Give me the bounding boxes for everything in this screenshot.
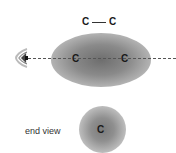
eye-icon [14,47,30,69]
carbon-atom-left: C [72,54,79,64]
end-view-label: end view [25,126,61,136]
sigma-bond-electron-cloud [51,33,151,87]
carbon-atom-right: C [121,54,128,64]
bond-formula: C C [82,17,122,29]
line-of-sight-axis [28,58,176,59]
single-bond-line [92,22,106,23]
carbon-label-right: C [109,17,116,27]
end-view-carbon-atom: C [97,125,104,135]
carbon-label-left: C [82,17,89,27]
